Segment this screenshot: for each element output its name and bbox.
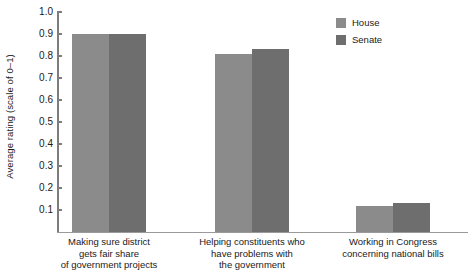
bar-group [72, 12, 146, 232]
category-label: Helping constituents whohave problems wi… [172, 236, 332, 271]
bar-senate[interactable] [393, 203, 430, 232]
legend-swatch-icon [336, 35, 346, 45]
category-label-line: of government projects [34, 259, 184, 271]
y-axis-tick-label: 0.2 [23, 183, 53, 193]
category-label: Making sure districtgets fair shareof go… [34, 236, 184, 271]
legend-swatch-icon [336, 18, 346, 28]
bar-house[interactable] [356, 206, 393, 232]
y-axis-tick-label: 0.8 [23, 51, 53, 61]
y-axis-tick-label: 0.6 [23, 95, 53, 105]
x-axis-line [57, 232, 468, 233]
y-axis-tick-label: 1.0 [23, 7, 53, 17]
category-label-line: Helping constituents who [172, 236, 332, 248]
y-axis-title: Average rating (scale of 0–1) [0, 0, 18, 232]
y-axis-tick-label: 0.7 [23, 73, 53, 83]
legend-label: Senate [352, 34, 382, 45]
y-axis-tick-label: 0.4 [23, 139, 53, 149]
category-label-line: Working in Congress [318, 236, 468, 248]
category-label-line: concerning national bills [318, 248, 468, 260]
bar-house[interactable] [215, 54, 252, 232]
legend-label: House [352, 17, 379, 28]
legend: HouseSenate [336, 17, 382, 51]
category-label-line: the government [172, 259, 332, 271]
bar-senate[interactable] [252, 49, 289, 232]
legend-item[interactable]: Senate [336, 34, 382, 45]
y-axis-tick-label: 0.3 [23, 161, 53, 171]
bar-group [215, 12, 289, 232]
bar-house[interactable] [72, 34, 109, 232]
y-axis-tick-labels: 1.00.90.80.70.60.50.40.30.20.1 [20, 0, 53, 274]
category-label-line: Making sure district [34, 236, 184, 248]
y-axis-title-text: Average rating (scale of 0–1) [4, 54, 15, 179]
y-axis-tick-label: 0.5 [23, 117, 53, 127]
legend-item[interactable]: House [336, 17, 382, 28]
y-axis-tick-label: 0.9 [23, 29, 53, 39]
category-label: Working in Congressconcerning national b… [318, 236, 468, 259]
y-axis-tick-label: 0.1 [23, 205, 53, 215]
bar-senate[interactable] [109, 34, 146, 232]
plot-area [57, 12, 468, 232]
bar-chart: Average rating (scale of 0–1) 1.00.90.80… [0, 0, 475, 274]
category-label-line: gets fair share [34, 248, 184, 260]
category-label-line: have problems with [172, 248, 332, 260]
